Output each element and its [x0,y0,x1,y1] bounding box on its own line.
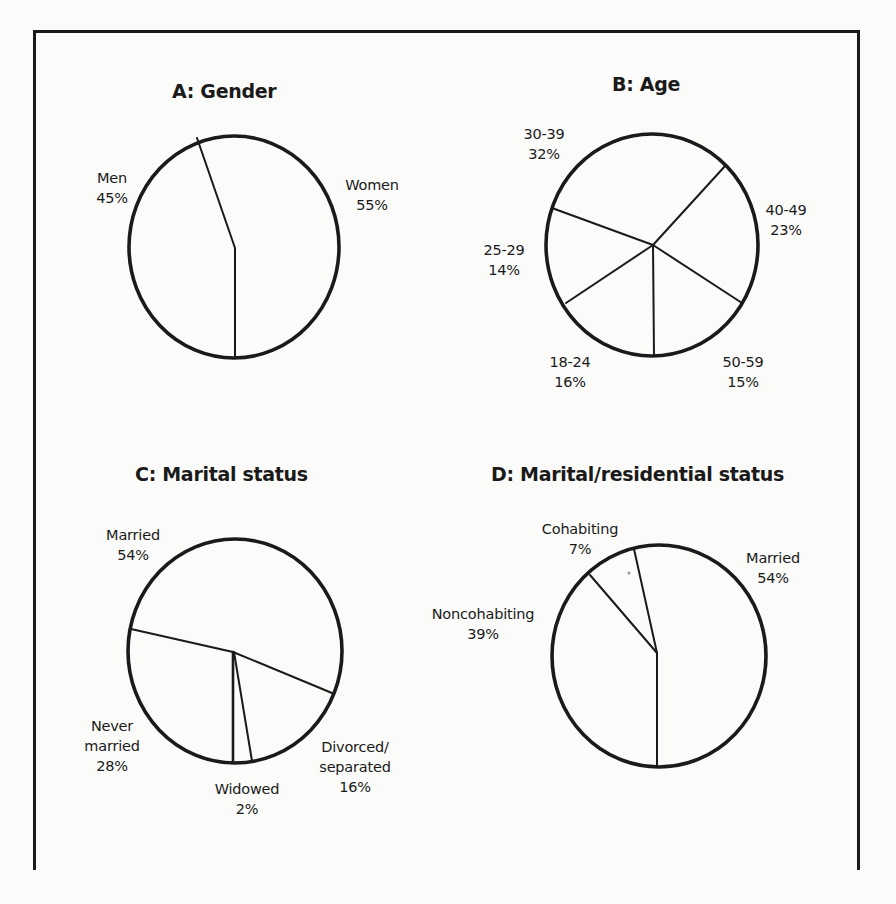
pie-marital-divider [234,652,252,761]
chart-title-residential: D: Marital/residential status [491,465,784,484]
label-text: Noncohabiting [418,604,548,624]
label-text: 25-29 [472,240,536,260]
label-widowed: Widowed 2% [205,779,289,819]
pie-marital-outline [128,539,342,763]
label-text: married [72,736,152,756]
label-text: Divorced/ [308,737,402,757]
label-25-29: 25-29 14% [472,240,536,280]
pie-age-divider [552,208,653,245]
pie-age-divider [653,165,726,245]
label-value: 54% [93,545,173,565]
label-value: 32% [512,144,576,164]
label-value: 14% [472,260,536,280]
label-value: 54% [733,568,813,588]
label-text: Men [82,168,142,188]
pie-age-divider [653,245,654,355]
label-text: Married [733,548,813,568]
chart-title-gender: A: Gender [172,82,276,101]
pie-residential-divider [634,549,657,653]
chart-title-marital: C: Marital status [135,465,308,484]
label-men: Men 45% [82,168,142,208]
label-cohabiting: Cohabiting 7% [530,519,630,559]
pie-age-divider [653,245,742,303]
chart-title-age: B: Age [612,75,680,94]
label-text: Never [72,716,152,736]
label-noncohabiting: Noncohabiting 39% [418,604,548,644]
label-value: 16% [308,777,402,797]
label-value: 23% [754,220,818,240]
label-text: 40-49 [754,200,818,220]
pie-gender-divider [197,138,235,358]
label-text: Cohabiting [530,519,630,539]
label-value: 45% [82,188,142,208]
label-married-d: Married 54% [733,548,813,588]
pie-age [546,134,758,356]
label-text: 50-59 [711,352,775,372]
pie-marital [128,539,342,763]
pie-age-divider [566,245,653,303]
pie-marital-divider [131,629,332,693]
label-value: 7% [530,539,630,559]
label-text: Widowed [205,779,289,799]
label-text: Married [93,525,173,545]
label-text: 30-39 [512,124,576,144]
label-40-49: 40-49 23% [754,200,818,240]
label-50-59: 50-59 15% [711,352,775,392]
label-18-24: 18-24 16% [538,352,602,392]
label-text: 18-24 [538,352,602,372]
label-text: Women [332,175,412,195]
label-value: 55% [332,195,412,215]
label-value: 39% [418,624,548,644]
label-value: 2% [205,799,289,819]
label-30-39: 30-39 32% [512,124,576,164]
label-women: Women 55% [332,175,412,215]
pie-residential-divider [590,575,657,653]
label-value: 16% [538,372,602,392]
label-never-married: Never married 28% [72,716,152,776]
label-value: 15% [711,372,775,392]
pie-gender [129,136,339,358]
label-value: 28% [72,756,152,776]
label-married-c: Married 54% [93,525,173,565]
label-divorced: Divorced/ separated 16% [308,737,402,797]
label-text: separated [308,757,402,777]
speck [628,572,631,575]
